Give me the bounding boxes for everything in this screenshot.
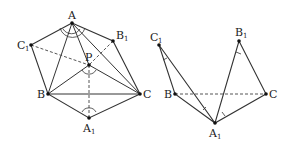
svg-text:1: 1 (124, 35, 128, 43)
svg-text:1: 1 (243, 32, 247, 40)
label-B-right: B (164, 88, 172, 101)
svg-text:1: 1 (91, 128, 95, 136)
label-A: A (67, 9, 77, 22)
right-figure (159, 41, 266, 123)
svg-text:1: 1 (217, 133, 221, 141)
geometry-diagram: A B 1 C 1 P B C A 1 C 1 B 1 B C A 1 (0, 0, 290, 149)
label-C: C (143, 88, 151, 101)
right-points (157, 39, 268, 125)
label-B: B (37, 88, 45, 101)
label-B1: B (116, 29, 124, 42)
svg-text:1: 1 (25, 45, 29, 53)
svg-text:1: 1 (158, 37, 162, 45)
label-C-right: C (269, 88, 277, 101)
label-B1-right: B (235, 26, 243, 39)
label-P: P (85, 51, 93, 64)
